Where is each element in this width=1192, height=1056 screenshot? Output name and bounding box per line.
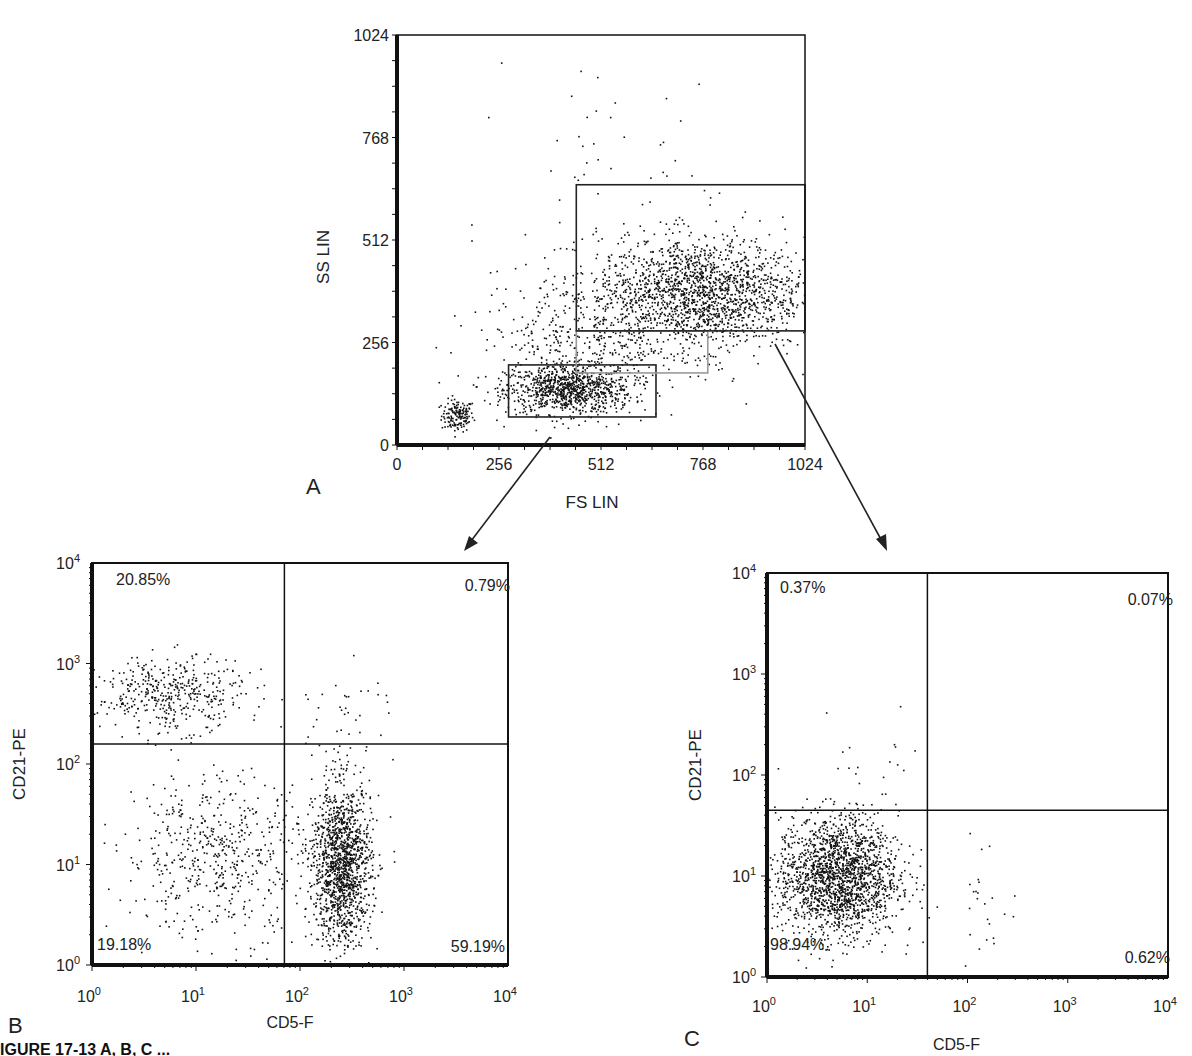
svg-text:100: 100: [752, 995, 776, 1015]
quadrant-lr-percent: 0.62%: [1125, 949, 1170, 966]
quadrant-ur-percent: 0.07%: [1128, 591, 1173, 608]
svg-text:104: 104: [732, 562, 756, 582]
svg-text:101: 101: [732, 865, 756, 885]
svg-text:103: 103: [389, 985, 413, 1005]
svg-text:102: 102: [953, 995, 977, 1015]
panel-c-letter: C: [684, 1026, 700, 1052]
svg-text:103: 103: [1053, 995, 1077, 1015]
svg-text:100: 100: [732, 966, 756, 986]
quadrant-ll-percent: 19.18%: [97, 936, 151, 953]
panel-b-y-axis-label: CD21-PE: [10, 728, 29, 800]
svg-text:101: 101: [56, 854, 80, 874]
svg-text:104: 104: [1153, 995, 1177, 1015]
svg-text:103: 103: [732, 663, 756, 683]
panel-c-data-points: [768, 706, 1016, 969]
panel-b-letter: B: [8, 1013, 23, 1039]
panel-c-x-axis-label: CD5-F: [933, 1036, 980, 1054]
svg-text:103: 103: [56, 653, 80, 673]
arrow-to-panel-c: [775, 344, 887, 551]
panel-c-scatter-plot: 100100101101102102103103104104 CD21-PE C…: [660, 550, 1192, 1030]
arrow-to-panel-b: [464, 437, 550, 551]
quadrant-ul-percent: 20.85%: [116, 571, 170, 588]
svg-text:102: 102: [285, 985, 309, 1005]
quadrant-ll-percent: 98.94%: [770, 936, 824, 953]
quadrant-ur-percent: 0.79%: [465, 577, 510, 594]
svg-text:101: 101: [181, 985, 205, 1005]
svg-text:104: 104: [56, 552, 80, 572]
svg-text:100: 100: [77, 985, 101, 1005]
panel-b-x-axis-label: CD5-F: [266, 1014, 313, 1030]
svg-text:102: 102: [732, 764, 756, 784]
figure-caption: IGURE 17-13 A, B, C ...: [0, 1041, 170, 1056]
panel-c-y-axis-label: CD21-PE: [686, 729, 705, 801]
panel-b-data-points: [93, 644, 396, 965]
quadrant-ul-percent: 0.37%: [780, 579, 825, 596]
quadrant-lr-percent: 59.19%: [451, 938, 505, 955]
svg-text:104: 104: [493, 985, 517, 1005]
svg-text:102: 102: [56, 753, 80, 773]
svg-text:100: 100: [56, 954, 80, 974]
svg-text:101: 101: [852, 995, 876, 1015]
panel-b-scatter-plot: 100100101101102102103103104104 CD21-PE C…: [0, 550, 530, 1030]
